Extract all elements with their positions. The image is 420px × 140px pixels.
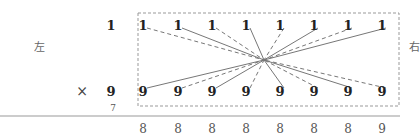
result-digit: 9: [378, 123, 386, 135]
top-digit: 1: [377, 19, 386, 32]
top-digit: 1: [138, 19, 147, 32]
bottom-digit: 9: [138, 85, 147, 98]
result-digit: 8: [208, 123, 216, 135]
carry-digit: 7: [110, 104, 116, 113]
bottom-digit: 9: [173, 85, 182, 98]
result-digit: 8: [276, 123, 284, 135]
top-digit: 1: [343, 19, 352, 32]
top-digit: 1: [173, 19, 182, 32]
top-digit: 1: [275, 19, 284, 32]
bottom-digit: 9: [275, 85, 284, 98]
bottom-digit: 9: [343, 85, 352, 98]
bottom-digit: 9: [309, 85, 318, 98]
multiplier: 9: [106, 85, 115, 98]
top-digit: 1: [309, 19, 318, 32]
left-label: 左: [34, 38, 45, 54]
result-digit: 8: [174, 123, 182, 135]
top-digit: 1: [207, 19, 216, 32]
bottom-digit: 9: [241, 85, 250, 98]
result-digit: 8: [242, 123, 250, 135]
result-digit: 8: [310, 123, 318, 135]
bottom-digit: 9: [377, 85, 386, 98]
result-digit: 8: [344, 123, 352, 135]
multiplicand: 1: [106, 19, 115, 32]
right-label: 右: [409, 38, 420, 54]
result-digit: 8: [139, 123, 147, 135]
top-digit: 1: [241, 19, 250, 32]
multiply-sign: ×: [76, 84, 88, 98]
bottom-digit: 9: [207, 85, 216, 98]
